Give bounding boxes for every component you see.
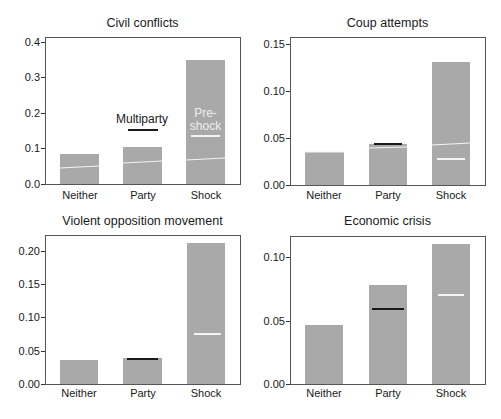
y-tick-label: 0.00 — [249, 179, 285, 191]
y-tick-mark — [41, 317, 45, 318]
preshock-line — [438, 294, 464, 296]
preshock-label-line2: shock — [186, 120, 225, 133]
y-tick-label: 0.1 — [4, 142, 40, 154]
x-tick-label: Shock — [176, 189, 236, 201]
y-tick-mark — [286, 321, 290, 322]
multiparty-line — [372, 308, 404, 310]
panel-title: Economic crisis — [290, 214, 485, 228]
y-tick-mark — [41, 77, 45, 78]
y-tick-mark — [286, 138, 290, 139]
x-tick-label: Party — [358, 189, 418, 201]
y-tick-label: 0.00 — [249, 378, 285, 390]
bar-neither — [305, 152, 344, 185]
bar-shock — [187, 243, 225, 384]
y-tick-mark — [41, 284, 45, 285]
bar-shock — [432, 244, 470, 384]
preshock-label: Pre- shock — [186, 107, 225, 133]
bar-party — [369, 285, 407, 384]
y-tick-label: 0.0 — [4, 178, 40, 190]
y-tick-label: 0.10 — [249, 85, 285, 97]
y-tick-label: 0.00 — [4, 378, 40, 390]
bar-party — [369, 144, 407, 185]
y-tick-label: 0.15 — [4, 278, 40, 290]
y-tick-label: 0.05 — [4, 345, 40, 357]
y-tick-mark — [286, 91, 290, 92]
panel-title: Civil conflicts — [45, 16, 240, 30]
x-tick-label: Neither — [294, 189, 354, 201]
x-tick-label: Shock — [176, 387, 236, 399]
bar-neither — [60, 360, 98, 384]
x-tick-label: Party — [113, 189, 173, 201]
panel-title: Coup attempts — [290, 16, 485, 30]
y-tick-mark — [286, 257, 290, 258]
multiparty-line — [374, 143, 402, 145]
y-tick-label: 0.4 — [4, 36, 40, 48]
multiparty-label: Multiparty — [112, 113, 172, 126]
bar-party — [123, 358, 162, 384]
y-tick-mark — [41, 251, 45, 252]
bar-party — [123, 147, 162, 184]
multiparty-line — [127, 358, 158, 360]
preshock-line — [437, 158, 465, 160]
y-tick-mark — [41, 42, 45, 43]
x-tick-label: Shock — [421, 189, 481, 201]
y-tick-mark — [41, 351, 45, 352]
panel-title: Violent opposition movement — [45, 214, 240, 228]
bar-shock — [432, 62, 470, 185]
y-tick-mark — [286, 384, 290, 385]
y-tick-label: 0.3 — [4, 71, 40, 83]
x-tick-label: Neither — [50, 189, 110, 201]
y-tick-label: 0.20 — [4, 245, 40, 257]
x-tick-label: Party — [113, 387, 173, 399]
y-tick-mark — [41, 184, 45, 185]
y-tick-label: 0.05 — [249, 132, 285, 144]
x-tick-label: Shock — [421, 387, 481, 399]
x-tick-label: Party — [358, 387, 418, 399]
y-tick-label: 0.15 — [249, 38, 285, 50]
x-tick-label: Neither — [49, 387, 109, 399]
y-tick-mark — [286, 185, 290, 186]
preshock-line — [191, 135, 220, 137]
y-tick-mark — [41, 113, 45, 114]
y-tick-label: 0.10 — [4, 311, 40, 323]
bar-neither — [305, 325, 343, 384]
preshock-line — [194, 333, 221, 335]
y-tick-mark — [286, 44, 290, 45]
bar-neither — [60, 154, 99, 184]
y-tick-label: 0.10 — [249, 251, 285, 263]
y-tick-mark — [41, 384, 45, 385]
y-tick-label: 0.05 — [249, 315, 285, 327]
multiparty-legend-line — [128, 129, 158, 131]
x-tick-label: Neither — [294, 387, 354, 399]
y-tick-label: 0.2 — [4, 107, 40, 119]
y-tick-mark — [41, 148, 45, 149]
